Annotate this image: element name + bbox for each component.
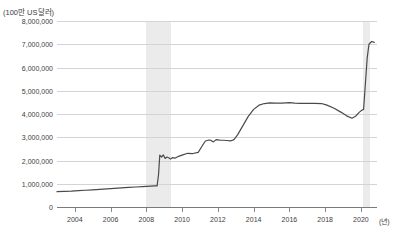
chart-page: (100만 US달러) 8,000,0007,000,0006,000,0005… [0, 0, 398, 237]
x-axis-tick [75, 208, 76, 212]
x-axis-tick-label: 2010 [174, 216, 190, 223]
x-axis-tick [254, 208, 255, 212]
x-axis-tick [111, 208, 112, 212]
x-axis-tick [218, 208, 219, 212]
y-axis-tick-label: 7,000,000 [22, 41, 53, 48]
x-axis-tick-label: 2012 [210, 216, 226, 223]
x-axis-tick [289, 208, 290, 212]
plot-area [57, 21, 377, 207]
x-axis-tick-label: 2008 [139, 216, 155, 223]
chart-title [0, 0, 398, 2]
y-axis-tick-label: 3,000,000 [22, 134, 53, 141]
y-axis-tick-label: 1,000,000 [22, 180, 53, 187]
x-axis-tick-label: 2004 [67, 216, 83, 223]
y-axis-tick-label: 8,000,000 [22, 18, 53, 25]
x-axis-tick [361, 208, 362, 212]
x-axis-tick-label: 2016 [282, 216, 298, 223]
x-axis-tick [182, 208, 183, 212]
x-axis-unit-label: (년) [379, 216, 390, 226]
y-axis-tick-label: 5,000,000 [22, 87, 53, 94]
y-axis-unit-label: (100만 US달러) [3, 6, 54, 17]
x-axis-labels: 200420062008201020122014201620182020 [57, 208, 377, 228]
x-axis-tick-label: 2006 [103, 216, 119, 223]
y-axis-tick-label: 6,000,000 [22, 64, 53, 71]
y-axis-labels: 8,000,0007,000,0006,000,0005,000,0004,00… [0, 21, 53, 207]
data-series-line [57, 41, 374, 191]
series-line-chart [57, 21, 377, 207]
x-axis-tick-label: 2014 [246, 216, 262, 223]
x-axis-tick [146, 208, 147, 212]
x-axis-tick-label: 2018 [317, 216, 333, 223]
x-axis-tick [325, 208, 326, 212]
y-axis-tick-label: 4,000,000 [22, 111, 53, 118]
x-axis-tick-label: 2020 [353, 216, 369, 223]
y-axis-tick-label: 0 [49, 204, 53, 211]
y-axis-tick-label: 2,000,000 [22, 157, 53, 164]
